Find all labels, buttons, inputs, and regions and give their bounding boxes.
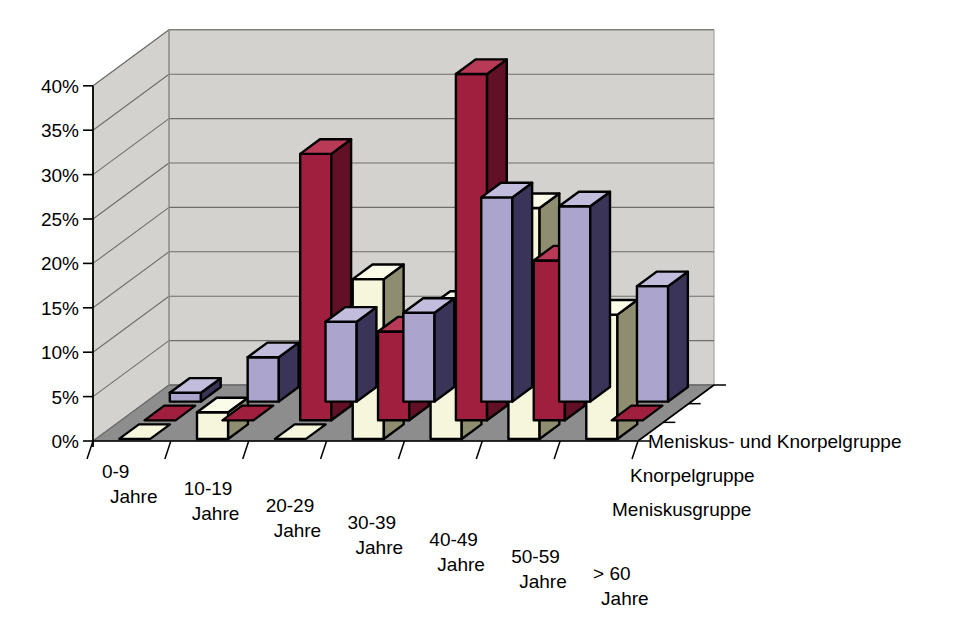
x-axis-category-line: Jahre	[356, 537, 404, 558]
bar[interactable]	[403, 298, 454, 401]
bar[interactable]	[559, 192, 610, 402]
y-axis-tick-label: 5%	[52, 387, 80, 408]
y-axis-tick-label: 20%	[41, 253, 79, 274]
x-axis-category-label: 0-9Jahre	[102, 461, 158, 507]
x-axis-category-line: > 60	[593, 563, 631, 584]
x-axis-category-line: Jahre	[437, 554, 485, 575]
chart-container: 0%5%10%15%20%25%30%35%40% 0-9Jahre10-19J…	[0, 0, 960, 623]
y-axis-ticks	[83, 86, 93, 447]
x-axis-category-label: 10-19Jahre	[184, 478, 240, 524]
x-axis-category-label: 40-49Jahre	[429, 529, 485, 575]
x-axis-category-line: Jahre	[601, 588, 649, 609]
y-axis-tick-label: 0%	[52, 431, 80, 452]
x-axis-category-label: 50-59Jahre	[511, 546, 567, 592]
x-axis-category-line: Jahre	[274, 520, 322, 541]
x-axis-category-line: Jahre	[519, 571, 567, 592]
y-axis-tick-label: 15%	[41, 298, 79, 319]
bar[interactable]	[326, 307, 377, 401]
three-d-bar-chart: 0%5%10%15%20%25%30%35%40% 0-9Jahre10-19J…	[0, 0, 960, 623]
bar[interactable]	[481, 183, 532, 402]
bar[interactable]	[637, 272, 688, 402]
x-axis-category-line: 0-9	[102, 461, 129, 482]
y-axis-labels: 0%5%10%15%20%25%30%35%40%	[41, 76, 79, 452]
bar[interactable]	[248, 343, 299, 402]
x-axis-category-line: 20-29	[266, 495, 315, 516]
x-axis-category-label: > 60Jahre	[593, 563, 649, 609]
y-axis-tick-label: 25%	[41, 209, 79, 230]
x-axis-category-line: Jahre	[110, 486, 158, 507]
series-label: Meniskus- und Knorpelgruppe	[648, 431, 902, 452]
y-axis-tick-label: 10%	[41, 342, 79, 363]
y-axis-tick-label: 35%	[41, 120, 79, 141]
series-label: Knorpelgruppe	[630, 465, 755, 486]
series-label: Meniskusgruppe	[612, 499, 751, 520]
x-axis-ticks	[87, 441, 638, 459]
x-axis-labels: 0-9Jahre10-19Jahre20-29Jahre30-39Jahre40…	[102, 461, 649, 609]
x-axis-category-line: 40-49	[429, 529, 478, 550]
x-axis-category-line: 30-39	[348, 512, 397, 533]
x-axis-category-line: Jahre	[192, 503, 240, 524]
x-axis-category-line: 10-19	[184, 478, 233, 499]
x-axis-category-label: 30-39Jahre	[348, 512, 404, 558]
y-axis-tick-label: 40%	[41, 76, 79, 97]
x-axis-category-label: 20-29Jahre	[266, 495, 322, 541]
y-axis-tick-label: 30%	[41, 165, 79, 186]
x-axis-category-line: 50-59	[511, 546, 560, 567]
